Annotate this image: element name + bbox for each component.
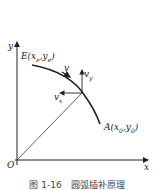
- circular-interpolation-diagram: [0, 0, 154, 190]
- vy-label: vy: [84, 70, 92, 81]
- radius-line: [17, 93, 82, 160]
- velocity-label: v: [64, 64, 69, 73]
- origin-label: O: [7, 161, 14, 170]
- x-axis-label: x: [144, 163, 149, 172]
- y-axis-label: y: [8, 42, 13, 51]
- figure-caption: 图 1-16 圆弧插补原理: [0, 178, 154, 190]
- vx-label: vx: [54, 93, 62, 104]
- end-point-label: A(x0,y0): [104, 123, 138, 134]
- start-point-label: E(xe,ye): [21, 52, 55, 63]
